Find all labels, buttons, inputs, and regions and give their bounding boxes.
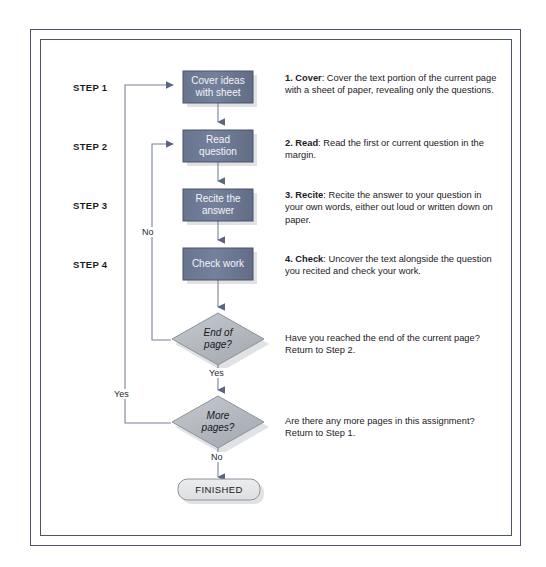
- node-more-pages[interactable]: [172, 396, 264, 448]
- description-check: 4. Check: Uncover the text alongside the…: [285, 253, 497, 278]
- description-more-pages: Are there any more pages in this assignm…: [285, 415, 497, 440]
- step-label-3: STEP 3: [73, 200, 107, 211]
- edge-no-loop-to-step2: [152, 144, 173, 340]
- description-end-of-page: Have you reached the end of the current …: [285, 332, 497, 357]
- description-recite: 3. Recite: Recite the answer to your que…: [285, 189, 497, 226]
- description-read-heading: 2. Read: [285, 138, 318, 148]
- description-end-of-page-body: Have you reached the end of the current …: [285, 333, 480, 355]
- step-label-1: STEP 1: [73, 82, 107, 93]
- node-read-question[interactable]: [183, 130, 253, 162]
- node-cover-ideas[interactable]: [183, 71, 253, 103]
- step-label-2: STEP 2: [73, 141, 107, 152]
- description-check-heading: 4. Check: [285, 254, 323, 264]
- edge-label-no-loop: No: [140, 227, 156, 237]
- step-label-4: STEP 4: [73, 259, 107, 270]
- terminal-node: [178, 479, 260, 500]
- edge-label-endpage-yes: Yes: [207, 368, 226, 378]
- edge-label-yes-loop: Yes: [112, 389, 131, 399]
- edge-label-morepages-no: No: [209, 452, 225, 462]
- edge-yes-loop-to-step1: [125, 85, 173, 423]
- description-more-pages-body: Are there any more pages in this assignm…: [285, 416, 475, 438]
- node-finished[interactable]: [178, 479, 260, 500]
- description-cover: 1. Cover: Cover the text portion of the …: [285, 72, 497, 97]
- node-end-of-page[interactable]: [172, 313, 264, 365]
- node-check-work[interactable]: [183, 248, 253, 280]
- description-cover-heading: 1. Cover: [285, 73, 322, 83]
- node-recite-answer[interactable]: [183, 189, 253, 221]
- flowchart-page: STEP 1 STEP 2 STEP 3 STEP 4 Cover ideas …: [0, 0, 546, 567]
- description-recite-heading: 3. Recite: [285, 190, 323, 200]
- description-read: 2. Read: Read the first or current quest…: [285, 137, 497, 162]
